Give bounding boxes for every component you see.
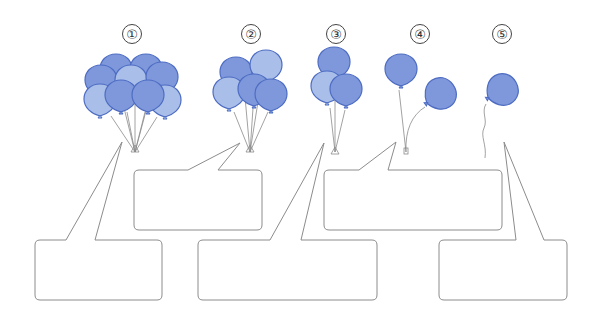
- group-label-4: ④: [410, 24, 430, 44]
- callout-text-1[interactable]: [36, 241, 161, 299]
- balloon-diagram: ① ② ③ ④ ⑤: [0, 0, 600, 319]
- callout-text-3[interactable]: [199, 241, 376, 299]
- balloon-group-5: [478, 68, 523, 158]
- callout-text-5[interactable]: [440, 241, 566, 299]
- callout-text-2[interactable]: [135, 171, 261, 229]
- group-label-1: ①: [122, 24, 142, 44]
- group-label-2: ②: [241, 24, 261, 44]
- callout-text-4[interactable]: [325, 171, 501, 229]
- balloon-group-1: [84, 54, 181, 152]
- balloon-group-3: [311, 47, 362, 154]
- balloon-group-2: [213, 50, 287, 152]
- group-label-5: ⑤: [492, 24, 512, 44]
- balloon-group-4: [385, 54, 462, 154]
- group-label-3: ③: [326, 24, 346, 44]
